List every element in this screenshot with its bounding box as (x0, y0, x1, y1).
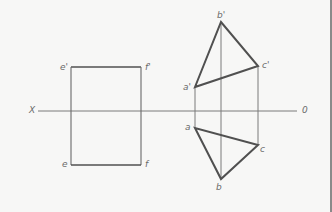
projection-drawing (0, 0, 332, 212)
diagram-canvas: X 0 e' f' e f a' b' c' a b c (0, 0, 332, 212)
axis-label-x: X (29, 106, 35, 115)
label-b-prime: b' (217, 11, 225, 20)
label-f: f (145, 160, 148, 169)
label-e-prime: e' (60, 63, 68, 72)
triangle-front-view (195, 22, 258, 87)
axis-label-zero: 0 (302, 106, 308, 115)
label-f-prime: f' (145, 63, 151, 72)
triangle-top-view (195, 128, 258, 179)
label-a-prime: a' (183, 83, 191, 92)
label-c: c (260, 145, 265, 154)
label-e: e (62, 160, 68, 169)
label-c-prime: c' (262, 61, 269, 70)
label-b: b (216, 183, 222, 192)
label-a: a (185, 123, 191, 132)
